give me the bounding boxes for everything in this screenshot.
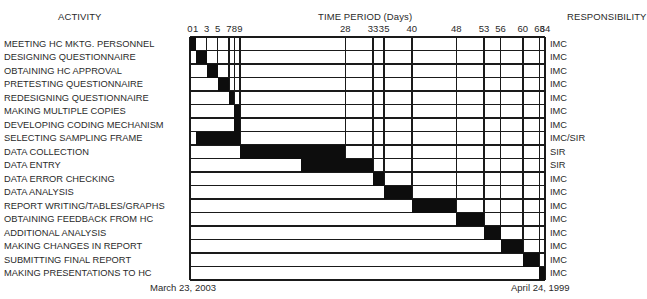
- grid-col-line: [411, 91, 413, 105]
- grid-col-line: [483, 118, 485, 132]
- task-bar: [218, 78, 229, 92]
- grid-col-line: [522, 51, 524, 65]
- activity-header: ACTIVITY: [58, 11, 102, 22]
- x-tick-label: 0: [187, 23, 192, 34]
- grid-col-line: [500, 105, 502, 119]
- task-bar: [234, 118, 240, 132]
- grid-col-line: [345, 132, 347, 146]
- task-bar: [484, 226, 501, 240]
- grid-col-line: [228, 37, 230, 51]
- grid-col-line: [544, 253, 546, 267]
- grid-col-line: [383, 105, 385, 119]
- grid-col-line: [456, 159, 458, 173]
- grid-col-line: [456, 78, 458, 92]
- x-tick-label: 9: [237, 23, 242, 34]
- grid-col-line: [483, 145, 485, 159]
- grid-col-line: [522, 37, 524, 51]
- responsibility-label: IMC: [550, 93, 567, 104]
- grid-col-line: [228, 51, 230, 65]
- grid-col-line: [539, 51, 541, 65]
- grid-col-line: [539, 37, 541, 51]
- grid-col-line: [456, 37, 458, 51]
- grid-col-line: [522, 226, 524, 240]
- grid-col-line: [411, 51, 413, 65]
- grid-col-line: [456, 51, 458, 65]
- grid-col-line: [383, 118, 385, 132]
- grid-row-line: [190, 185, 545, 187]
- x-tick-label: 64: [540, 23, 551, 34]
- responsibility-label: IMC: [550, 214, 567, 225]
- grid-col-line: [544, 78, 546, 92]
- grid-col-line: [411, 132, 413, 146]
- x-tick-label: 3: [204, 23, 209, 34]
- responsibility-label: IMC: [550, 120, 567, 131]
- grid-col-line: [234, 78, 236, 92]
- grid-col-line: [500, 132, 502, 146]
- grid-col-line: [411, 172, 413, 186]
- grid-col-line: [539, 118, 541, 132]
- grid-col-line: [411, 145, 413, 159]
- grid-col-line: [372, 145, 374, 159]
- grid-col-line: [383, 64, 385, 78]
- grid-col-line: [345, 64, 347, 78]
- grid-col-line: [500, 199, 502, 213]
- activity-label: PRETESTING QUESTIONNAIRE: [4, 79, 143, 90]
- x-tick-label: 60: [518, 23, 529, 34]
- grid-col-line: [189, 64, 191, 78]
- grid-col-line: [372, 78, 374, 92]
- task-bar: [229, 91, 235, 105]
- grid-col-line: [544, 172, 546, 186]
- grid-col-line: [539, 145, 541, 159]
- grid-col-line: [522, 132, 524, 146]
- responsibility-label: IMC: [550, 66, 567, 77]
- task-bar: [190, 37, 196, 51]
- grid-col-line: [539, 91, 541, 105]
- grid-col-line: [189, 105, 191, 119]
- grid-col-line: [456, 118, 458, 132]
- responsibility-label: IMC: [550, 268, 567, 279]
- grid-row-line: [190, 252, 545, 254]
- task-bar: [523, 253, 540, 267]
- responsibility-label: IMC: [550, 106, 567, 117]
- grid-col-line: [522, 91, 524, 105]
- grid-col-line: [234, 37, 236, 51]
- grid-col-line: [239, 51, 241, 65]
- grid-col-line: [500, 64, 502, 78]
- activity-label: DATA COLLECTION: [4, 147, 89, 158]
- grid-row-line: [190, 77, 545, 79]
- x-tick-label: 28: [340, 23, 351, 34]
- grid-col-line: [539, 172, 541, 186]
- grid-col-line: [411, 159, 413, 173]
- task-bar: [539, 267, 545, 281]
- grid-col-line: [483, 132, 485, 146]
- grid-col-line: [234, 51, 236, 65]
- grid-col-line: [522, 159, 524, 173]
- activity-label: MAKING CHANGES IN REPORT: [4, 241, 142, 252]
- grid-col-line: [345, 37, 347, 51]
- grid-col-line: [189, 240, 191, 254]
- x-tick-label: 7: [226, 23, 231, 34]
- task-bar: [234, 105, 240, 119]
- grid-row-line: [190, 212, 545, 214]
- grid-col-line: [345, 118, 347, 132]
- grid-col-line: [544, 91, 546, 105]
- grid-col-line: [383, 51, 385, 65]
- grid-col-line: [383, 132, 385, 146]
- grid-col-line: [500, 78, 502, 92]
- activity-label: SUBMITTING FINAL REPORT: [4, 255, 131, 266]
- grid-col-line: [483, 64, 485, 78]
- grid-col-line: [189, 51, 191, 65]
- grid-col-line: [411, 105, 413, 119]
- grid-col-line: [522, 64, 524, 78]
- grid-col-line: [483, 51, 485, 65]
- grid-col-line: [483, 37, 485, 51]
- x-tick-label: 40: [407, 23, 418, 34]
- grid-col-line: [544, 159, 546, 173]
- responsibility-label: IMC: [550, 241, 567, 252]
- grid-col-line: [189, 226, 191, 240]
- grid-col-line: [456, 91, 458, 105]
- responsibility-label: IMC: [550, 52, 567, 63]
- activity-label: DEVELOPING CODING MECHANISM: [4, 120, 164, 131]
- responsibility-label: IMC: [550, 39, 567, 50]
- grid-col-line: [483, 199, 485, 213]
